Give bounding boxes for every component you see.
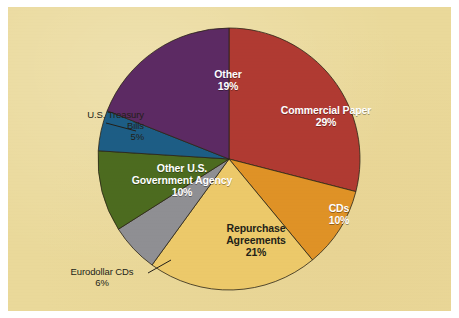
chart-figure: Commercial Paper 29% CDs 10% Repurchase … [0,0,459,318]
pie-chart-plot-area: Commercial Paper 29% CDs 10% Repurchase … [8,7,451,311]
pie-slice-group [98,28,360,290]
pie-chart-svg [8,7,451,311]
